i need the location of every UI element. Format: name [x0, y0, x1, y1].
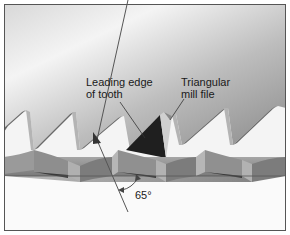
- file-label-line1: Triangular: [181, 76, 230, 88]
- leading-edge-label-line2: of tooth: [86, 88, 153, 100]
- file-label: Triangular mill file: [181, 76, 230, 100]
- saw-tooth-diagram: Leading edge of tooth Triangular mill fi…: [0, 0, 290, 235]
- file-label-line2: mill file: [181, 88, 230, 100]
- leading-edge-label-line1: Leading edge: [86, 76, 153, 88]
- leading-edge-label: Leading edge of tooth: [86, 76, 153, 100]
- angle-label: 65°: [135, 189, 152, 201]
